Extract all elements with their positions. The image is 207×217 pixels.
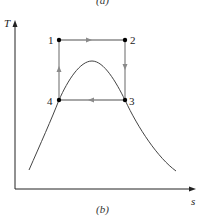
point-label-2: 2 <box>130 35 136 46</box>
caption-b: (b) <box>96 203 109 215</box>
arrow-left-icon <box>88 98 94 103</box>
state-points <box>57 38 127 102</box>
point-label-4: 4 <box>47 96 53 107</box>
x-axis-label: s <box>191 195 195 207</box>
ts-diagram <box>0 0 207 217</box>
arrow-up-icon <box>57 66 62 72</box>
y-axis-label: T <box>4 17 10 29</box>
saturation-dome-curve <box>29 61 176 171</box>
arrow-right-icon <box>86 38 92 43</box>
point-label-1: 1 <box>48 35 54 46</box>
arrow-down-icon <box>123 64 128 70</box>
direction-arrows <box>57 38 128 103</box>
axes <box>13 20 197 192</box>
cycle-rectangle <box>59 40 125 100</box>
point-label-3: 3 <box>129 96 135 107</box>
